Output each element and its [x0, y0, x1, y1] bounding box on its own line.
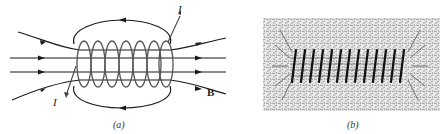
caption-a: (a) [113, 119, 125, 130]
solenoid-field-line-diagram [0, 0, 230, 134]
current-label-top: I [178, 3, 182, 15]
field-line-4 [12, 80, 226, 100]
return-loop-top [74, 20, 171, 44]
return-loop-bottom [74, 86, 171, 108]
field-line-1 [18, 32, 226, 50]
field-arrows [38, 18, 202, 111]
panel-b-iron-filings-photo: (b) [230, 0, 445, 134]
current-label-bottom: I [53, 96, 57, 108]
current-lead-top [168, 16, 180, 42]
filings-background [263, 18, 440, 111]
panel-a-solenoid-field-lines: I I B (a) [0, 0, 230, 134]
iron-filings-image [230, 0, 445, 134]
field-label-b: B [207, 86, 214, 98]
caption-b: (b) [347, 119, 359, 130]
